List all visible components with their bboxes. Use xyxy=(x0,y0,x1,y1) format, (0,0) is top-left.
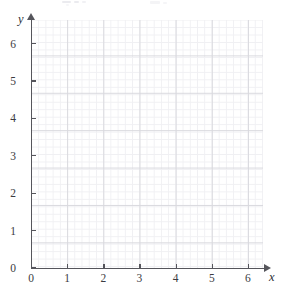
x-tick-mark xyxy=(248,264,249,269)
text-artifact xyxy=(150,1,160,4)
y-axis-line xyxy=(31,20,32,269)
x-tick-mark xyxy=(67,264,68,269)
y-tick-mark xyxy=(31,118,36,119)
x-tick-label: 6 xyxy=(245,272,251,284)
x-tick-label: 1 xyxy=(64,272,70,284)
y-tick-mark xyxy=(31,80,36,81)
y-tick-mark xyxy=(31,155,36,156)
x-tick-mark xyxy=(176,264,177,269)
text-artifact xyxy=(82,1,86,3)
x-tick-label: 0 xyxy=(28,272,34,284)
x-tick-label: 4 xyxy=(173,272,179,284)
text-artifact xyxy=(62,1,71,3)
y-tick-label: 6 xyxy=(10,38,16,50)
text-artifact xyxy=(66,4,69,6)
text-artifact xyxy=(74,1,79,3)
cropped-text-artifacts xyxy=(0,0,282,8)
y-tick-mark xyxy=(31,43,36,44)
text-artifact xyxy=(163,2,167,4)
y-tick-mark xyxy=(31,230,36,231)
x-tick-label: 2 xyxy=(100,272,106,284)
y-tick-label: 0 xyxy=(10,262,16,274)
y-tick-mark xyxy=(31,267,36,268)
y-tick-label: 2 xyxy=(10,187,16,199)
y-axis-label: y xyxy=(18,12,24,27)
x-tick-mark xyxy=(212,264,213,269)
x-tick-label: 3 xyxy=(137,272,143,284)
major-gridlines xyxy=(31,20,263,268)
x-tick-mark xyxy=(103,264,104,269)
y-tick-mark xyxy=(31,193,36,194)
coordinate-grid-figure: 0123456 0123456 x y xyxy=(0,0,282,296)
y-tick-label: 5 xyxy=(10,75,16,87)
x-tick-label: 5 xyxy=(209,272,215,284)
y-tick-label: 1 xyxy=(10,225,16,237)
y-tick-label: 3 xyxy=(10,150,16,162)
x-tick-mark xyxy=(139,264,140,269)
x-axis-label: x xyxy=(269,270,275,285)
y-tick-label: 4 xyxy=(10,112,16,124)
plot-area xyxy=(31,20,263,268)
y-axis-arrowhead-icon xyxy=(27,13,35,20)
